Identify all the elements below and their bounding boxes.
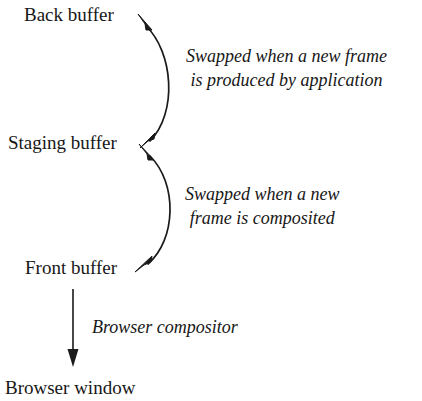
node-staging-buffer: Staging buffer bbox=[8, 133, 117, 152]
edge-label-staging-front-line1: Swapped when a new bbox=[185, 183, 340, 207]
edge-staging-front-arrow bbox=[135, 144, 170, 272]
node-browser-window: Browser window bbox=[5, 378, 135, 397]
edge-label-front-window: Browser compositor bbox=[92, 316, 238, 340]
diagram-canvas: Back buffer Staging buffer Front buffer … bbox=[0, 0, 422, 401]
edge-back-staging-arrow bbox=[138, 14, 169, 148]
node-front-buffer: Front buffer bbox=[25, 258, 117, 277]
edge-label-staging-front: Swapped when a new frame is composited bbox=[185, 183, 340, 231]
edge-label-back-staging: Swapped when a new frame is produced by … bbox=[186, 45, 387, 93]
node-back-buffer: Back buffer bbox=[24, 5, 114, 24]
edge-label-back-staging-line1: Swapped when a new frame bbox=[186, 45, 387, 69]
edge-label-staging-front-line2: frame is composited bbox=[185, 207, 340, 231]
edge-label-back-staging-line2: is produced by application bbox=[186, 69, 387, 93]
edge-front-window-arrow bbox=[68, 289, 79, 367]
